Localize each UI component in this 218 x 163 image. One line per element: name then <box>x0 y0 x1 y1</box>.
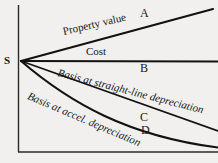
depreciation-basis-diagram: S A B C D Property value Cost Basis at s… <box>0 0 218 163</box>
endpoint-label-c: C <box>140 111 148 123</box>
endpoint-label-d: D <box>141 124 150 136</box>
curve-label-cost: Cost <box>86 46 106 57</box>
curve-cost <box>21 61 218 62</box>
origin-label-s: S <box>4 55 10 66</box>
endpoint-label-a: A <box>140 7 149 19</box>
endpoint-label-b: B <box>140 62 148 74</box>
